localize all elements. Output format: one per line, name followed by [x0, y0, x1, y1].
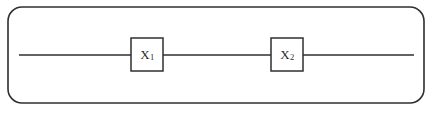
gate-subscript-x2: 2: [290, 53, 294, 62]
gate-label-x2: X2: [271, 38, 303, 71]
gate-label-x1: X1: [131, 38, 163, 71]
gate-symbol-x2: X: [280, 48, 289, 61]
circuit-drawing-surface: [0, 0, 433, 115]
circuit-diagram-canvas: X1 X2: [0, 0, 433, 115]
gate-subscript-x1: 1: [150, 53, 154, 62]
gate-symbol-x1: X: [140, 48, 149, 61]
